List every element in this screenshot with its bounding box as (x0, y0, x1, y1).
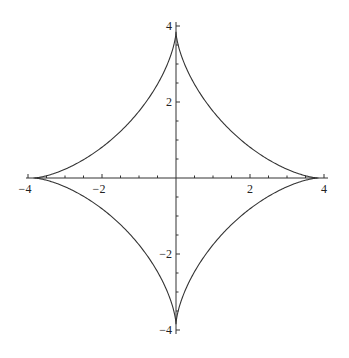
y-tick-label: −4 (159, 323, 172, 337)
x-tick-label: 4 (321, 182, 327, 196)
x-tick-label: −2 (93, 182, 106, 196)
x-tick-label: 2 (247, 182, 253, 196)
y-tick-label: 2 (166, 95, 172, 109)
y-tick-label: −2 (159, 247, 172, 261)
x-tick-label: −4 (19, 182, 32, 196)
astroid-plot: −4−224−4−224 (0, 0, 349, 358)
y-tick-label: 4 (166, 19, 172, 33)
axes (26, 22, 328, 334)
